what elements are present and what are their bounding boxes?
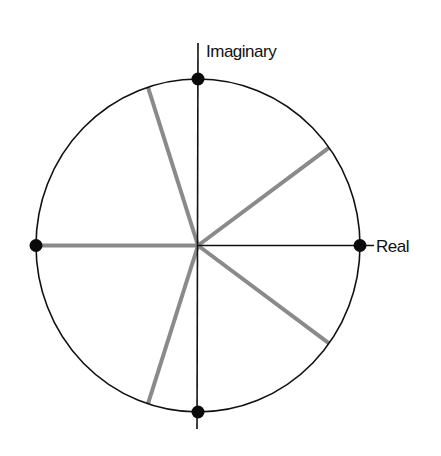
imaginary-axis-label: Imaginary: [206, 42, 277, 61]
point-negative-real: [30, 239, 43, 252]
spoke: [148, 246, 198, 404]
point-positive-imaginary: [192, 73, 205, 86]
spoke: [198, 246, 329, 344]
spoke: [148, 87, 198, 245]
imaginary-axis: [197, 43, 198, 429]
real-axis-label: Real: [376, 237, 409, 256]
point-negative-imaginary: [192, 406, 205, 419]
spoke: [198, 148, 329, 246]
point-positive-real: [354, 239, 367, 252]
complex-plane-diagram: Real Imaginary: [0, 0, 441, 456]
